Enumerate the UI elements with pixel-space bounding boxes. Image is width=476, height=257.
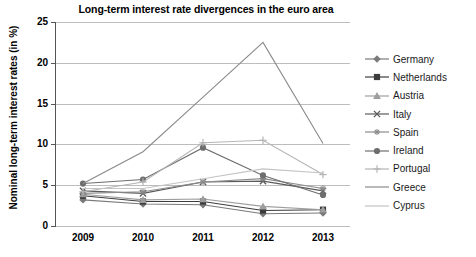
legend-item-spain[interactable]: Spain (364, 123, 474, 141)
series-line (83, 148, 323, 195)
chart-figure: Long-term interest rate divergences in t… (0, 0, 476, 257)
legend-label: Italy (390, 109, 411, 120)
legend-label: Cyprus (390, 200, 425, 211)
series-ireland (80, 145, 326, 199)
y-tick-label: 10 (22, 138, 48, 149)
data-point (140, 189, 146, 195)
legend-item-netherlands[interactable]: Netherlands (364, 68, 474, 86)
legend-marker-triangle-icon (364, 89, 390, 103)
series-lines (56, 22, 350, 226)
data-point (320, 185, 326, 191)
legend-marker-asterisk-icon (364, 125, 390, 139)
y-tick-label: 15 (22, 98, 48, 109)
plot-area (56, 22, 350, 226)
legend-marker-diamond-icon (364, 52, 390, 66)
legend-label: Ireland (390, 145, 424, 156)
x-tick-label: 2012 (233, 232, 293, 243)
legend-marker-line-icon (364, 199, 390, 213)
x-tick-label: 2011 (173, 232, 233, 243)
series-austria (79, 190, 327, 213)
legend-item-cyprus[interactable]: Cyprus (364, 196, 474, 214)
legend-label: Spain (390, 127, 419, 138)
legend-item-greece[interactable]: Greece (364, 178, 474, 196)
legend-label: Austria (390, 90, 424, 101)
legend-label: Netherlands (390, 72, 447, 83)
chart-legend: GermanyNetherlandsAustriaItalySpainIrela… (364, 50, 474, 215)
y-tick-label: 20 (22, 57, 48, 68)
legend-marker-circle-icon (364, 144, 390, 158)
y-axis-label: Nominal long-term interest rates (in %) (8, 13, 19, 223)
legend-label: Germany (390, 54, 434, 65)
series-greece (83, 42, 323, 183)
legend-marker-plus-icon (364, 162, 390, 176)
legend-item-austria[interactable]: Austria (364, 87, 474, 105)
legend-item-italy[interactable]: Italy (364, 105, 474, 123)
data-point (319, 171, 326, 178)
data-point (260, 172, 266, 178)
legend-item-ireland[interactable]: Ireland (364, 141, 474, 159)
legend-marker-line-icon (364, 180, 390, 194)
legend-point (373, 55, 380, 62)
data-point (259, 137, 266, 144)
x-tick-label: 2009 (53, 232, 113, 243)
y-tick-label: 5 (22, 179, 48, 190)
legend-item-portugal[interactable]: Portugal (364, 160, 474, 178)
x-tick-label: 2010 (113, 232, 173, 243)
legend-point (374, 148, 380, 154)
data-point (199, 139, 206, 146)
legend-point (374, 129, 380, 135)
legend-point (373, 165, 380, 172)
x-tick-label: 2013 (293, 232, 353, 243)
chart-title: Long-term interest rate divergences in t… (56, 3, 356, 15)
legend-label: Greece (390, 182, 426, 193)
y-tick-label: 0 (22, 220, 48, 231)
series-line (83, 42, 323, 183)
legend-marker-cross-icon (364, 107, 390, 121)
legend-marker-square-icon (364, 70, 390, 84)
y-tick-label: 25 (22, 16, 48, 27)
legend-point (374, 74, 380, 80)
gridline (56, 226, 350, 227)
legend-label: Portugal (390, 163, 430, 174)
legend-item-germany[interactable]: Germany (364, 50, 474, 68)
data-point (320, 192, 326, 198)
